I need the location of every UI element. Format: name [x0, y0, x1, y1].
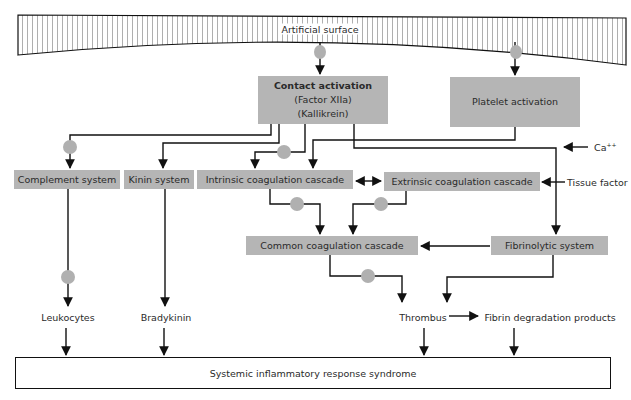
factor-xiia-label: (Factor XIIa): [294, 93, 351, 107]
common-cascade-label: Common coagulation cascade: [260, 239, 403, 253]
sirs-box: Systemic inflammatory response syndrome: [15, 357, 611, 389]
connector-layer: [0, 0, 631, 400]
kinin-system-label: Kinin system: [129, 173, 190, 187]
leukocytes-label: Leukocytes: [41, 312, 94, 323]
complement-system-box: Complement system: [14, 170, 120, 189]
platelet-activation-label: Platelet activation: [472, 95, 558, 109]
sirs-label: Systemic inflammatory response syndrome: [210, 368, 417, 379]
contact-activation-title: Contact activation: [274, 79, 372, 93]
calcium-symbol: Ca: [594, 142, 606, 153]
calcium-label: Ca++: [594, 141, 617, 153]
fibrinolytic-system-label: Fibrinolytic system: [505, 239, 594, 253]
intrinsic-cascade-label: Intrinsic coagulation cascade: [206, 173, 344, 187]
kinin-system-box: Kinin system: [124, 170, 194, 189]
mediator-node: [510, 45, 522, 59]
extrinsic-cascade-label: Extrinsic coagulation cascade: [391, 175, 532, 189]
intrinsic-cascade-box: Intrinsic coagulation cascade: [197, 170, 353, 189]
platelet-activation-box: Platelet activation: [450, 77, 580, 127]
mediator-node: [361, 269, 375, 283]
cardiopulmonary-bypass-sirs-diagram: Artificial surface Contact activation (F…: [0, 0, 631, 400]
fibrin-degradation-products-label: Fibrin degradation products: [484, 312, 615, 323]
extrinsic-cascade-box: Extrinsic coagulation cascade: [384, 172, 540, 191]
mediator-node: [290, 197, 304, 211]
common-cascade-box: Common coagulation cascade: [246, 236, 418, 255]
mediator-node: [374, 197, 388, 211]
complement-system-label: Complement system: [18, 173, 116, 187]
thrombus-label: Thrombus: [399, 312, 447, 323]
mediator-node: [314, 45, 326, 59]
contact-activation-box: Contact activation (Factor XIIa) (Kallik…: [258, 76, 388, 124]
fibrinolytic-system-box: Fibrinolytic system: [491, 236, 608, 255]
mediator-node: [277, 145, 291, 159]
tissue-factor-label: Tissue factor: [567, 177, 628, 188]
mediator-node: [63, 140, 77, 154]
mediator-node: [61, 270, 75, 284]
calcium-charge: ++: [606, 141, 616, 148]
bradykinin-label: Bradykinin: [141, 312, 192, 323]
artificial-surface-label: Artificial surface: [279, 24, 360, 35]
kallikrein-label: (Kallikrein): [298, 107, 349, 121]
